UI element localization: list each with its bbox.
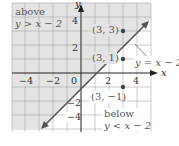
point-3-1 (121, 57, 125, 61)
point-label-3-neg1: (3, −1) (91, 91, 126, 102)
above-region-inequality: y > x − 2 (14, 18, 62, 29)
x-tick-2: 2 (105, 75, 111, 86)
above-region-title: above (15, 6, 45, 17)
point-label-3-1: (3, 1) (92, 52, 119, 63)
x-tick-0: 0 (71, 75, 77, 86)
y-tick--2: −2 (67, 97, 81, 108)
point-label-3-3: (3, 3) (92, 24, 119, 35)
y-tick--4: −4 (67, 111, 81, 122)
coordinate-graph: (3, 3) (3, 1) (3, −1) −4 −2 0 2 4 4 2 −2… (0, 0, 179, 146)
x-axis-arrow-icon (150, 70, 158, 76)
point-3-neg1 (121, 85, 125, 89)
equation-label: y = x − 2 (134, 57, 179, 68)
x-tick-4: 4 (133, 75, 139, 86)
x-tick--2: −2 (46, 75, 60, 86)
point-3-3 (121, 29, 125, 33)
y-tick-2: 2 (72, 42, 78, 53)
x-tick--4: −4 (19, 75, 33, 86)
y-tick-4: 4 (72, 15, 78, 26)
below-region-inequality: y < x − 2 (103, 120, 151, 131)
y-axis-label: y (74, 0, 81, 9)
below-region-title: below (104, 108, 135, 119)
